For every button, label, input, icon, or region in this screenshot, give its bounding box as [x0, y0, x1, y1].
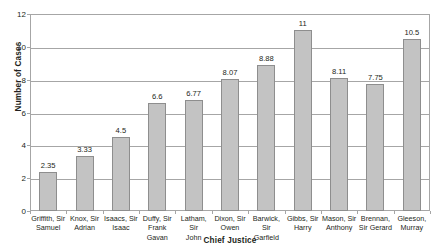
x-tick-label-line: Barwick, Sir [248, 214, 284, 233]
x-tick-label-line: Samuel [30, 223, 66, 232]
bar-value-label: 10.5 [404, 28, 419, 37]
y-tick-label: 10 [4, 42, 26, 51]
bar-value-label: 7.75 [368, 73, 383, 82]
x-tick-label: Brennan,Sir Gerard [357, 214, 393, 233]
bar-group: 6.77 [175, 14, 211, 211]
bar-value-label: 6.6 [152, 92, 163, 101]
bars-layer: 2.353.334.56.66.778.078.88118.117.7510.5 [30, 14, 430, 211]
x-axis-title: Chief Justice [30, 236, 430, 245]
x-tick-label-line: Sir Gerard [357, 223, 393, 232]
bar-group: 6.6 [139, 14, 175, 211]
bar-group: 7.75 [357, 14, 393, 211]
bar [403, 39, 421, 211]
bar-value-label: 4.5 [116, 126, 127, 135]
bar [330, 78, 348, 211]
bar-value-label: 8.88 [259, 54, 274, 63]
y-tick-label: 6 [4, 108, 26, 117]
x-tick-label-line: Knox, Sir [66, 214, 102, 223]
bar-group: 8.11 [321, 14, 357, 211]
bar-value-label: 8.11 [332, 67, 346, 76]
bar-group: 8.88 [248, 14, 284, 211]
x-tick-label: Griffith, SirSamuel [30, 214, 66, 233]
x-tick-mark [430, 211, 431, 214]
y-tick-label: 2 [4, 174, 26, 183]
x-tick-label-line: Gibbs, Sir [285, 214, 321, 223]
bar-group: 8.07 [212, 14, 248, 211]
bar [221, 79, 239, 211]
y-tick-label: 4 [4, 141, 26, 150]
y-tick-label: 0 [4, 207, 26, 216]
x-tick-label-line: Owen [212, 223, 248, 232]
x-tick-label-line: Griffith, Sir [30, 214, 66, 223]
bar-group: 10.5 [394, 14, 430, 211]
x-tick-label: Gleeson,Murray [394, 214, 430, 233]
bar [112, 137, 130, 211]
bar-group: 11 [285, 14, 321, 211]
bar [185, 100, 203, 211]
bar-value-label: 11 [299, 19, 307, 28]
y-tick-label: 12 [4, 10, 26, 19]
x-tick-label: Knox, SirAdrian [66, 214, 102, 233]
x-axis-labels: Griffith, SirSamuelKnox, SirAdrianIsaacs… [30, 214, 430, 236]
bar [148, 103, 166, 211]
bar-value-label: 6.77 [186, 89, 201, 98]
x-tick-label-line: Adrian [66, 223, 102, 232]
bar-value-label: 8.07 [223, 68, 238, 77]
bar-value-label: 2.35 [41, 161, 56, 170]
bar [366, 84, 384, 211]
bar [76, 156, 94, 211]
x-tick-label-line: Murray [394, 223, 430, 232]
x-tick-label-line: Mason, Sir [321, 214, 357, 223]
x-tick-label: Gibbs, SirHarry [285, 214, 321, 233]
x-tick-label-line: Gleeson, [394, 214, 430, 223]
bar [294, 30, 312, 211]
x-tick-label-line: Isaacs, Sir [103, 214, 139, 223]
x-tick-label-line: Isaac [103, 223, 139, 232]
bar-chart: Number of Cases 024681012 2.353.334.56.6… [0, 0, 444, 252]
x-tick-label: Dixon, SirOwen [212, 214, 248, 233]
x-tick-label-line: Anthony [321, 223, 357, 232]
bar [39, 172, 57, 211]
x-tick-label: Mason, SirAnthony [321, 214, 357, 233]
x-tick-label-line: Harry [285, 223, 321, 232]
x-tick-label-line: Brennan, [357, 214, 393, 223]
y-tick-label: 8 [4, 75, 26, 84]
bar [257, 65, 275, 211]
bar-group: 4.5 [103, 14, 139, 211]
x-tick-label: Isaacs, SirIsaac [103, 214, 139, 233]
bar-group: 2.35 [30, 14, 66, 211]
bar-group: 3.33 [66, 14, 102, 211]
bar-value-label: 3.33 [77, 145, 92, 154]
x-tick-label-line: Dixon, Sir [212, 214, 248, 223]
x-tick-label-line: Latham, Sir [175, 214, 211, 233]
x-tick-label-line: Duffy, Sir [139, 214, 175, 223]
